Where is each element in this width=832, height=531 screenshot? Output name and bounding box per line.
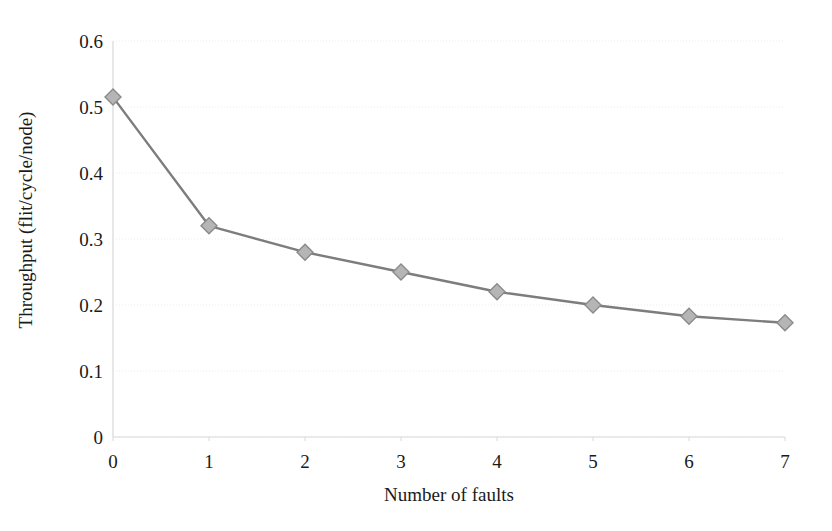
x-tick-label: 0 [108, 452, 118, 471]
x-tick-label: 7 [780, 452, 790, 471]
x-tick-label: 4 [492, 452, 502, 471]
y-tick-label: 0.1 [55, 362, 103, 381]
x-tick-label: 2 [300, 452, 310, 471]
y-tick-label: 0 [55, 428, 103, 447]
y-tick-label: 0.3 [55, 230, 103, 249]
y-tick-label: 0.2 [55, 296, 103, 315]
axis-lines-group [113, 41, 785, 441]
data-point-marker [489, 284, 505, 300]
data-point-marker [585, 297, 601, 313]
data-point-markers [105, 89, 793, 331]
y-axis-title: Throughput (flit/cycle/node) [12, 0, 40, 440]
x-tick-label: 6 [684, 452, 694, 471]
y-tick-label: 0.4 [55, 164, 103, 183]
data-point-marker [681, 308, 697, 324]
y-tick-label: 0.6 [55, 32, 103, 51]
x-tick-label: 1 [204, 452, 214, 471]
throughput-line [113, 97, 785, 323]
data-point-marker [393, 264, 409, 280]
y-tick-label: 0.5 [55, 98, 103, 117]
x-tick-label: 5 [588, 452, 598, 471]
x-tick-label: 3 [396, 452, 406, 471]
chart-plot-area [0, 0, 832, 531]
data-point-marker [777, 315, 793, 331]
gridlines-group [113, 41, 785, 437]
chart-figure: 00.10.20.30.40.50.6 01234567 Number of f… [0, 0, 832, 531]
data-point-marker [297, 244, 313, 260]
x-axis-title: Number of faults [113, 484, 785, 506]
